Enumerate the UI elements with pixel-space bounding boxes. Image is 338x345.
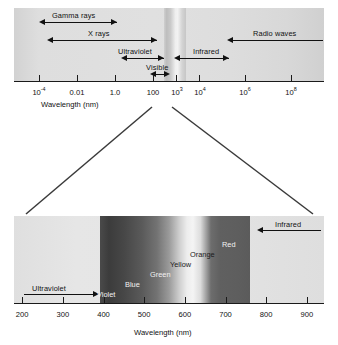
bottom-infrared-arrow-line xyxy=(263,230,321,231)
bottom-infrared-arrow-head-left xyxy=(257,227,263,233)
top-axis-tick xyxy=(199,75,200,81)
top-tick-label-base: 100 xyxy=(147,88,160,97)
gamma-rays-arrow-head-left xyxy=(39,19,45,25)
gamma-rays-label: Gamma rays xyxy=(52,12,95,19)
top-tick-label: 10-4 xyxy=(32,89,45,97)
bottom-axis-tick xyxy=(63,297,64,303)
bottom-tick-label: 800 xyxy=(260,311,273,319)
color-label-yellow: Yellow xyxy=(170,261,191,268)
bottom-tick-label: 400 xyxy=(97,311,110,319)
top-tick-label-exponent: 8 xyxy=(294,86,297,92)
top-axis-tick xyxy=(291,75,292,81)
bottom-tick-label: 500 xyxy=(138,311,151,319)
infrared-arrow-head-right xyxy=(223,55,229,61)
x-rays-label: X rays xyxy=(88,30,110,37)
color-label-blue: Blue xyxy=(125,281,140,288)
color-label-green: Green xyxy=(150,271,171,278)
top-axis-tick xyxy=(39,75,40,81)
bottom-tick-label: 600 xyxy=(178,311,191,319)
top-tick-label-base: 0.01 xyxy=(70,88,85,97)
top-axis-tick xyxy=(115,75,116,81)
bottom-axis-tick xyxy=(144,297,145,303)
electromagnetic-spectrum-figure: Gamma rays X rays Ultraviolet Infrared R… xyxy=(0,0,338,345)
bottom-axis-line xyxy=(14,303,324,304)
x-rays-arrow-line xyxy=(53,40,157,41)
gamma-rays-arrow-head-right xyxy=(111,19,117,25)
bottom-ultraviolet-arrow-line xyxy=(24,294,94,295)
top-axis-caption: Wavelength (nm) xyxy=(41,101,99,109)
bottom-tick-label: 900 xyxy=(300,311,313,319)
bottom-axis-tick xyxy=(185,297,186,303)
connector-line-right xyxy=(172,107,313,214)
top-tick-label-base: 1.0 xyxy=(110,88,121,97)
top-tick-label-exponent: 4 xyxy=(203,86,206,92)
bottom-tick-label: 700 xyxy=(219,311,232,319)
bottom-axis-tick xyxy=(22,297,23,303)
bottom-axis-tick xyxy=(104,297,105,303)
bottom-axis-tick xyxy=(307,297,308,303)
infrared-arrow-head-left xyxy=(174,55,180,61)
ultraviolet-label: Ultraviolet xyxy=(118,48,152,55)
radio-waves-arrow-head-left xyxy=(227,37,233,43)
gamma-rays-arrow-line xyxy=(45,22,117,23)
top-tick-label: 103 xyxy=(171,89,182,97)
top-axis-tick xyxy=(176,75,177,81)
x-rays-arrow-head-right xyxy=(151,37,157,43)
top-tick-label: 104 xyxy=(194,89,205,97)
top-axis-tick xyxy=(245,75,246,81)
bottom-axis-tick xyxy=(266,297,267,303)
bottom-tick-label: 300 xyxy=(56,311,69,319)
color-label-red: Red xyxy=(222,241,236,248)
top-tick-label-exponent: -4 xyxy=(41,86,46,92)
bottom-infrared-label: Infrared xyxy=(275,221,301,228)
top-tick-label-exponent: 6 xyxy=(248,86,251,92)
radio-waves-label: Radio waves xyxy=(253,30,296,37)
top-tick-label: 106 xyxy=(239,89,250,97)
color-label-orange: Orange xyxy=(190,251,215,258)
x-rays-arrow-head-left xyxy=(47,37,53,43)
top-axis-tick xyxy=(77,75,78,81)
top-tick-label: 108 xyxy=(285,89,296,97)
connector-line-left xyxy=(26,107,152,214)
bottom-tick-label: 200 xyxy=(16,311,29,319)
top-tick-label: 1.0 xyxy=(110,89,121,97)
top-tick-label: 0.01 xyxy=(70,89,85,97)
top-tick-label-exponent: 3 xyxy=(180,86,183,92)
top-tick-label: 100 xyxy=(147,89,160,97)
radio-waves-arrow-line xyxy=(233,40,323,41)
bottom-axis-tick xyxy=(226,297,227,303)
bottom-ultraviolet-label: Ultraviolet xyxy=(32,285,66,292)
top-axis-tick xyxy=(153,75,154,81)
color-label-violet: Violet xyxy=(97,291,115,298)
infrared-arrow-line xyxy=(180,58,229,59)
ultraviolet-arrow-head-right xyxy=(158,55,164,61)
top-axis-line xyxy=(14,81,324,82)
infrared-label: Infrared xyxy=(193,48,219,55)
visible-label: Visible xyxy=(146,64,168,71)
bottom-axis-caption: Wavelength (nm) xyxy=(134,329,192,337)
